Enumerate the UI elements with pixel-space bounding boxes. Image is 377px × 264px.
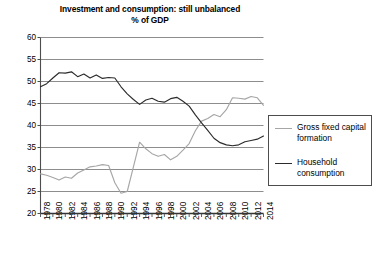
- series-line-household-consumption: [41, 72, 264, 146]
- chart-container: Investment and consumption: still unbala…: [0, 0, 377, 264]
- legend-item-gross-fixed-capital-formation: Gross fixed capital formation: [275, 122, 367, 143]
- legend-label: Household consumption: [297, 157, 367, 178]
- legend-label: Gross fixed capital formation: [297, 122, 367, 143]
- legend-line-swatch-icon: [275, 160, 292, 168]
- chart-legend: Gross fixed capital formation Household …: [268, 115, 372, 186]
- legend-line-swatch-icon: [275, 125, 292, 133]
- legend-item-household-consumption: Household consumption: [275, 157, 367, 178]
